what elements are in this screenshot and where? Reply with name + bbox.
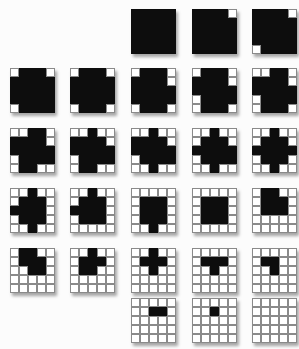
pattern-square-20 bbox=[131, 248, 176, 293]
cell-black bbox=[88, 197, 97, 206]
cell-white bbox=[131, 164, 140, 173]
cell-white bbox=[288, 248, 297, 257]
cell-white bbox=[288, 224, 297, 233]
cell-white bbox=[158, 275, 167, 284]
pattern-square-5 bbox=[131, 68, 176, 113]
cell-white bbox=[252, 266, 261, 275]
cell-black bbox=[88, 188, 97, 197]
cell-black bbox=[158, 104, 167, 113]
cell-black bbox=[37, 197, 46, 206]
cell-black bbox=[19, 206, 28, 215]
cell-black bbox=[270, 197, 279, 206]
cell-white bbox=[261, 307, 270, 316]
cell-white bbox=[167, 275, 176, 284]
cell-white bbox=[201, 275, 210, 284]
cell-black bbox=[201, 45, 210, 54]
cell-white bbox=[201, 248, 210, 257]
cell-white bbox=[97, 224, 106, 233]
cell-white bbox=[106, 137, 115, 146]
cell-white bbox=[106, 197, 115, 206]
cell-black bbox=[70, 137, 79, 146]
cell-black bbox=[270, 266, 279, 275]
cell-white bbox=[288, 334, 297, 343]
cell-white bbox=[19, 128, 28, 137]
cell-black bbox=[201, 155, 210, 164]
cell-black bbox=[79, 86, 88, 95]
cell-black bbox=[131, 77, 140, 86]
pattern-square-25 bbox=[252, 298, 297, 343]
cell-white bbox=[279, 128, 288, 137]
cell-white bbox=[192, 137, 201, 146]
cell-black bbox=[88, 86, 97, 95]
cell-white bbox=[219, 275, 228, 284]
cell-white bbox=[140, 275, 149, 284]
pattern-square-0 bbox=[131, 9, 176, 54]
cell-black bbox=[131, 137, 140, 146]
cell-white bbox=[210, 298, 219, 307]
cell-white bbox=[97, 266, 106, 275]
cell-white bbox=[279, 224, 288, 233]
cell-white bbox=[261, 334, 270, 343]
cell-black bbox=[10, 206, 19, 215]
cell-black bbox=[131, 18, 140, 27]
cell-black bbox=[140, 9, 149, 18]
cell-black bbox=[19, 68, 28, 77]
cell-black bbox=[88, 128, 97, 137]
cell-black bbox=[37, 68, 46, 77]
cell-black bbox=[140, 137, 149, 146]
cell-black bbox=[158, 18, 167, 27]
cell-white bbox=[288, 77, 297, 86]
cell-black bbox=[279, 95, 288, 104]
cell-white bbox=[252, 316, 261, 325]
cell-white bbox=[219, 224, 228, 233]
cell-black bbox=[219, 86, 228, 95]
cell-white bbox=[46, 284, 55, 293]
cell-black bbox=[37, 266, 46, 275]
cell-black bbox=[270, 206, 279, 215]
cell-white bbox=[158, 334, 167, 343]
cell-black bbox=[210, 95, 219, 104]
pattern-square-19 bbox=[70, 248, 115, 293]
cell-white bbox=[140, 334, 149, 343]
cell-white bbox=[106, 104, 115, 113]
cell-white bbox=[252, 188, 261, 197]
cell-black bbox=[167, 155, 176, 164]
cell-black bbox=[201, 206, 210, 215]
cell-black bbox=[228, 86, 237, 95]
cell-black bbox=[19, 104, 28, 113]
cell-white bbox=[252, 334, 261, 343]
cell-black bbox=[210, 137, 219, 146]
cell-black bbox=[19, 215, 28, 224]
cell-black bbox=[219, 206, 228, 215]
cell-white bbox=[201, 284, 210, 293]
cell-white bbox=[131, 316, 140, 325]
cell-white bbox=[10, 248, 19, 257]
cell-black bbox=[149, 86, 158, 95]
cell-black bbox=[97, 68, 106, 77]
cell-black bbox=[261, 95, 270, 104]
cell-black bbox=[210, 215, 219, 224]
cell-white bbox=[10, 104, 19, 113]
cell-black bbox=[149, 9, 158, 18]
cell-black bbox=[270, 77, 279, 86]
cell-white bbox=[252, 257, 261, 266]
cell-black bbox=[201, 9, 210, 18]
pattern-square-13 bbox=[10, 188, 55, 233]
cell-white bbox=[228, 266, 237, 275]
cell-black bbox=[158, 36, 167, 45]
cell-white bbox=[167, 137, 176, 146]
cell-black bbox=[167, 146, 176, 155]
cell-black bbox=[140, 45, 149, 54]
cell-white bbox=[167, 77, 176, 86]
cell-white bbox=[201, 307, 210, 316]
cell-black bbox=[158, 86, 167, 95]
cell-black bbox=[79, 146, 88, 155]
cell-white bbox=[131, 128, 140, 137]
cell-black bbox=[228, 36, 237, 45]
cell-black bbox=[149, 104, 158, 113]
cell-white bbox=[131, 284, 140, 293]
cell-white bbox=[10, 266, 19, 275]
cell-black bbox=[97, 257, 106, 266]
cell-white bbox=[140, 164, 149, 173]
cell-white bbox=[279, 248, 288, 257]
